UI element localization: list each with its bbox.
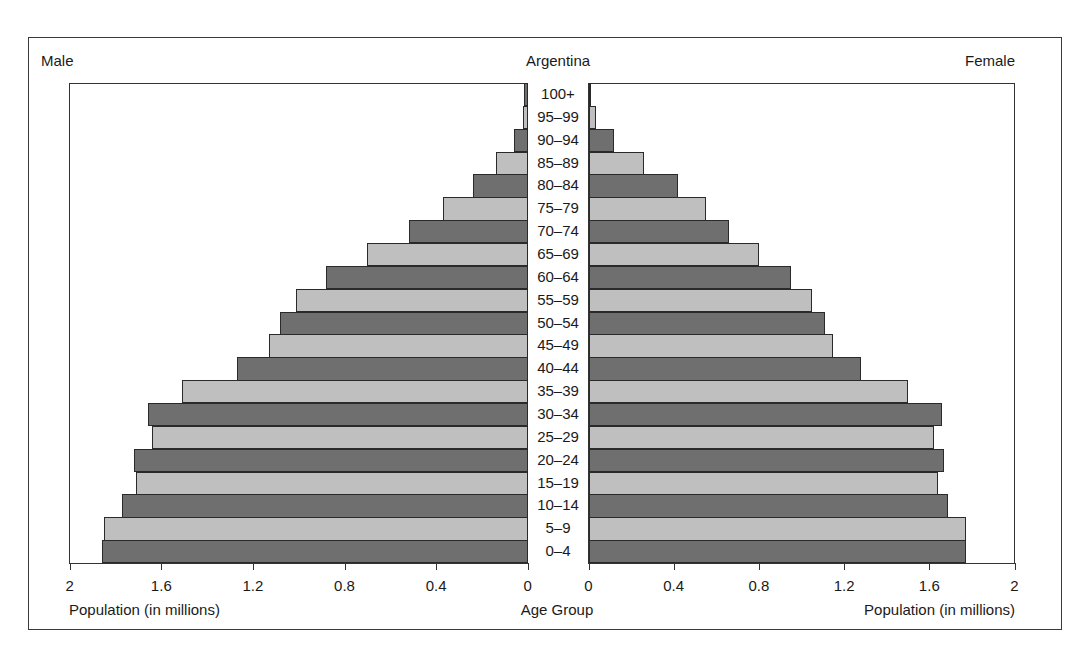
female-tick-label: 2 [1010,577,1018,594]
female-bar [589,197,706,220]
age-group-label: 40–44 [528,357,588,380]
age-group-label: 35–39 [528,380,588,403]
male-bar [104,517,528,540]
female-bar [589,449,945,472]
female-tick-label: 0.4 [663,577,684,594]
age-group-label: 70–74 [528,220,588,243]
male-x-axis [69,563,528,564]
female-tick-label: 0 [584,577,592,594]
female-bar [589,517,966,540]
age-group-label: 50–54 [528,312,588,335]
female-x-axis-title: Population (in millions) [864,602,1015,617]
male-tick-label: 2 [66,577,74,594]
female-bar [589,106,596,129]
age-group-label: 65–69 [528,243,588,266]
chart-title: Argentina [526,53,590,68]
male-bar [136,472,528,495]
female-bar [589,426,934,449]
age-group-label: 25–29 [528,426,588,449]
male-tick-label: 1.2 [242,577,263,594]
male-bar [102,540,528,563]
age-group-label: 55–59 [528,289,588,312]
female-tick-mark [929,563,930,570]
female-tick-mark [589,563,590,570]
male-bar [496,152,528,175]
male-tick-label: 1.6 [151,577,172,594]
male-x-axis-title: Population (in millions) [69,602,220,617]
age-group-label: 100+ [528,83,588,106]
female-x-axis [588,563,1015,564]
female-tick-label: 1.2 [834,577,855,594]
male-bar [473,174,528,197]
male-bar [514,129,528,152]
male-bar [182,380,528,403]
male-bar [122,494,527,517]
male-bar [409,220,528,243]
male-tick-mark [345,563,346,570]
female-tick-mark [759,563,760,570]
male-tick-mark [528,563,529,570]
male-tick-mark [436,563,437,570]
male-bar [326,266,528,289]
female-bar [589,380,909,403]
female-label: Female [965,53,1015,68]
female-bar [589,174,678,197]
male-tick-mark [253,563,254,570]
female-tick-label: 1.6 [919,577,940,594]
age-group-label: 85–89 [528,152,588,175]
female-bar [589,472,938,495]
age-group-label: 30–34 [528,403,588,426]
male-bar [237,357,528,380]
age-group-label: 75–79 [528,197,588,220]
female-bar [589,540,966,563]
female-tick-label: 0.8 [748,577,769,594]
male-bar [280,312,527,335]
female-bar [589,334,834,357]
age-group-label: 15–19 [528,472,588,495]
male-bar [443,197,528,220]
age-group-label: 60–64 [528,266,588,289]
male-bar [523,106,528,129]
male-tick-label: 0.8 [334,577,355,594]
age-group-label: 45–49 [528,334,588,357]
age-group-label: Age Group [521,602,594,617]
male-bar [148,403,528,426]
age-group-label: 95–99 [528,106,588,129]
male-tick-label: 0 [524,577,532,594]
male-bar [296,289,527,312]
male-bar [152,426,528,449]
male-tick-label: 0.4 [426,577,447,594]
age-group-label: 5–9 [528,517,588,540]
female-bar [589,266,791,289]
male-bar [134,449,528,472]
female-bar [589,357,862,380]
male-bar [269,334,528,357]
male-tick-mark [70,563,71,570]
age-group-label: 20–24 [528,449,588,472]
female-bar [589,152,644,175]
age-group-label: 80–84 [528,174,588,197]
female-bar [589,289,813,312]
male-bar [367,243,527,266]
female-bar [589,403,943,426]
female-bar [589,243,759,266]
female-bar [589,129,615,152]
female-bar [589,83,591,106]
male-label: Male [41,53,74,68]
female-bar [589,494,949,517]
male-tick-mark [161,563,162,570]
female-bar [589,312,825,335]
female-bar [589,220,730,243]
age-group-label: 10–14 [528,494,588,517]
age-group-label: 0–4 [528,540,588,563]
age-group-label: 90–94 [528,129,588,152]
female-tick-mark [1015,563,1016,570]
female-tick-mark [674,563,675,570]
female-tick-mark [844,563,845,570]
